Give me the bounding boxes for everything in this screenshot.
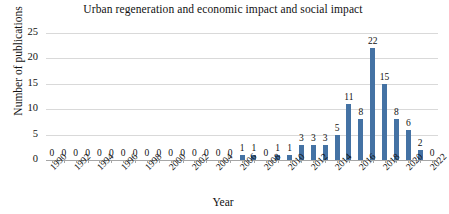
x-tick-label: 2020 <box>404 152 425 173</box>
x-tick-label: 1990 <box>48 152 69 173</box>
x-axis-title: Year <box>0 196 446 208</box>
x-tick-label: 2002 <box>190 152 211 173</box>
x-tick-label: 1996 <box>119 152 140 173</box>
x-tick-label: 2010 <box>286 152 307 173</box>
x-tick-label: 2000 <box>167 152 188 173</box>
x-tick-label: 2018 <box>381 152 402 173</box>
x-tick-label: 2016 <box>357 152 378 173</box>
x-tick-label: 2014 <box>333 152 354 173</box>
x-tick-label: 2012 <box>309 152 330 173</box>
x-tick-label: 2006 <box>238 152 259 173</box>
x-tick-label: 1992 <box>72 152 93 173</box>
x-tick-label: 1994 <box>95 152 116 173</box>
x-tick-label: 1998 <box>143 152 164 173</box>
x-tick-label: 2004 <box>214 152 235 173</box>
x-tick-label: 2008 <box>262 152 283 173</box>
x-tick-label: 2022 <box>428 152 449 173</box>
